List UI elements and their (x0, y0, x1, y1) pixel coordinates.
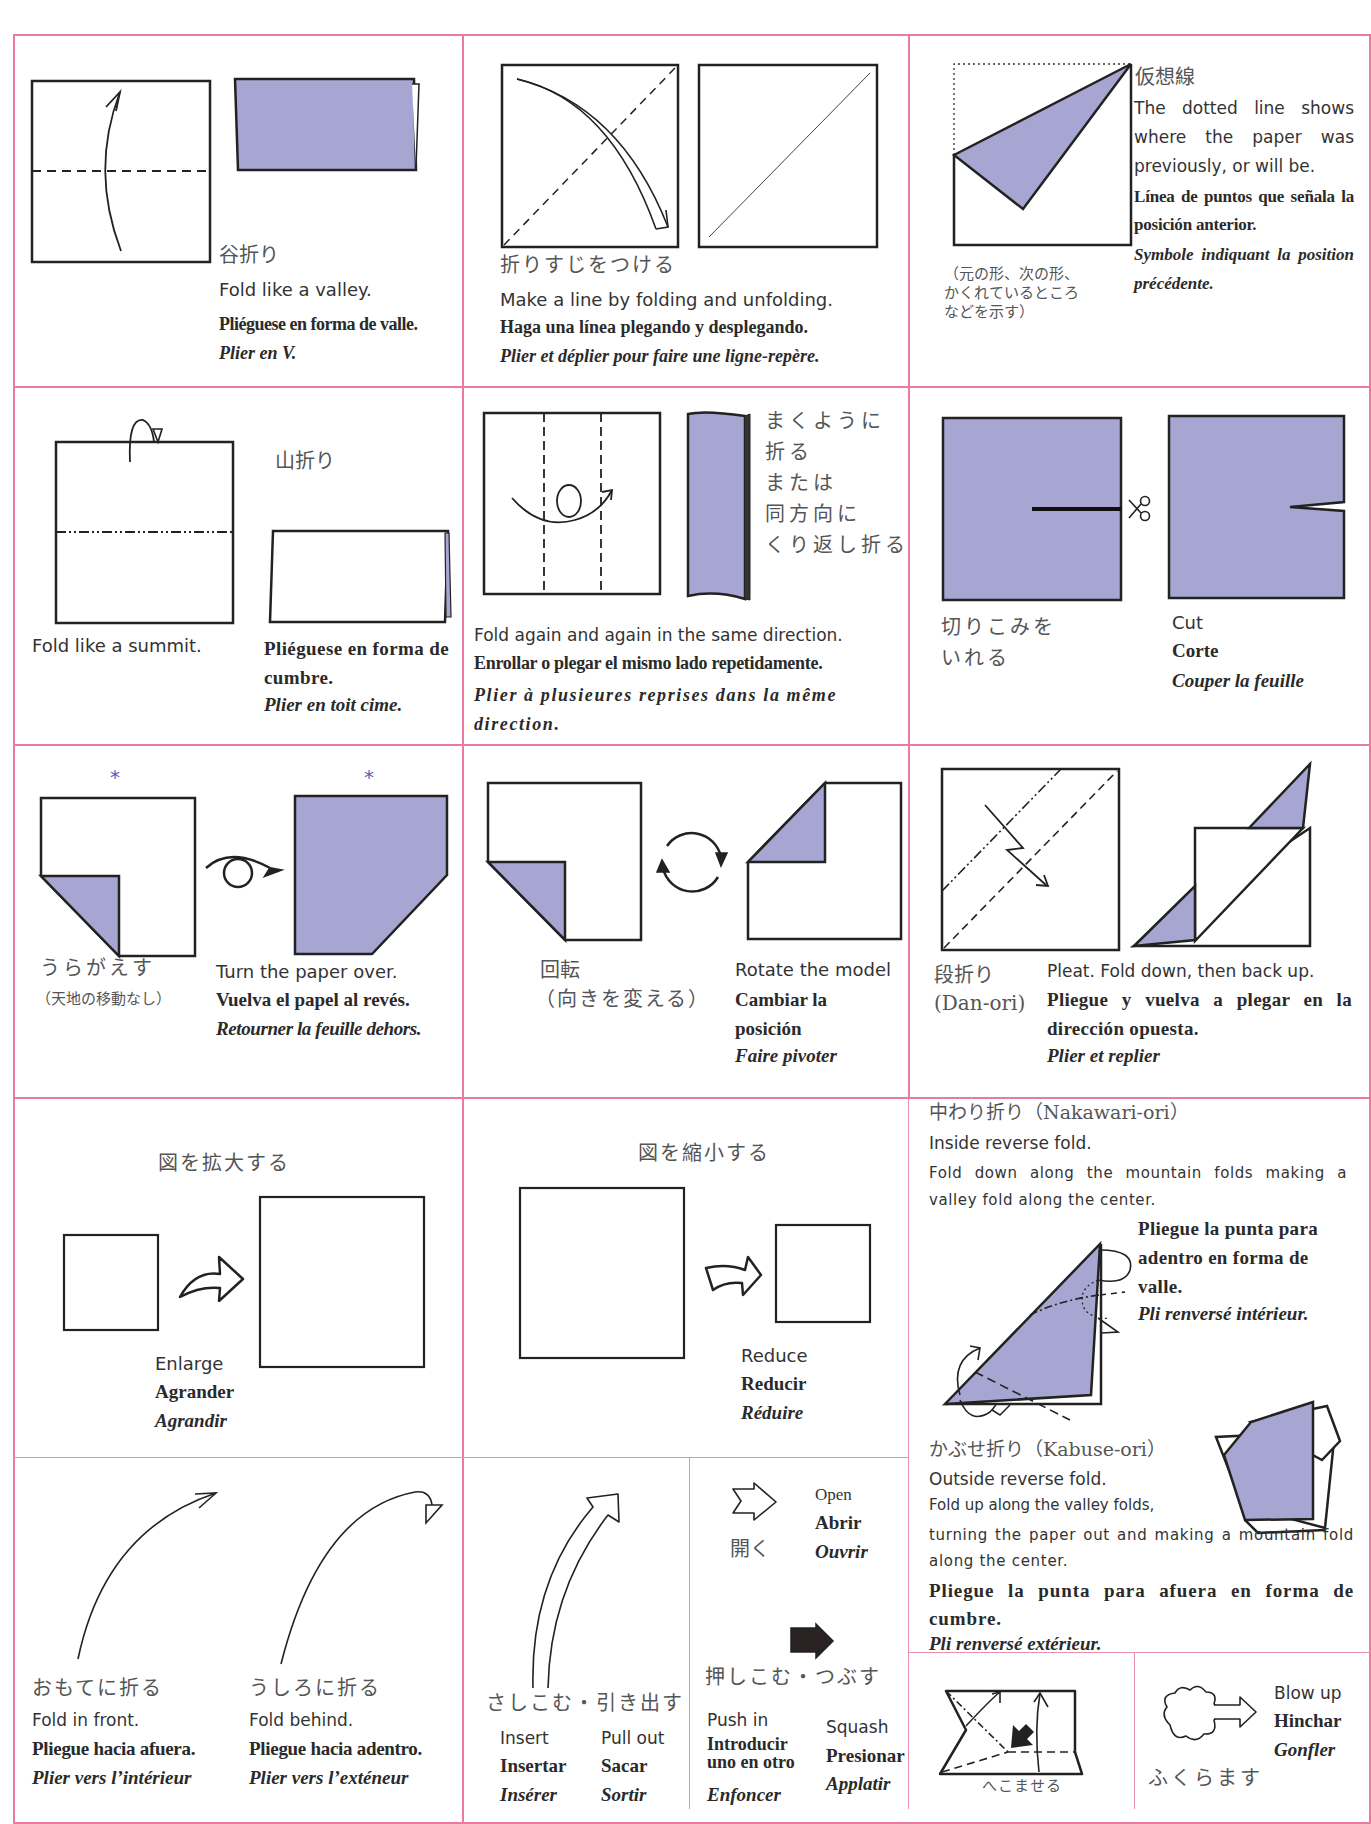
push-in-en: Push in (707, 1709, 768, 1731)
hidden-line-en: The dotted line shows where the paper wa… (1134, 94, 1354, 181)
valley-fold-es: Pliéguese en forma de valle. (219, 313, 417, 337)
mountain-fold-es: Pliéguese en forma de cumbre. (264, 634, 460, 692)
crease-jp: 折りすじをつける (500, 252, 676, 278)
outside-reverse-fr: Pli renversé extérieur. (929, 1631, 1102, 1656)
pleat-en: Pleat. Fold down, then back up. (1047, 960, 1314, 982)
pull-out-es: Sacar (601, 1753, 647, 1778)
enlarge-en: Enlarge (155, 1352, 223, 1376)
roll-fold-jp-4: 同方向に (765, 501, 861, 527)
pleat-es: Pliegue y vuelva a plegar en la direcció… (1047, 985, 1352, 1043)
hidden-line-jp: 仮想線 (1135, 64, 1195, 90)
blow-up-fr: Gonfler (1274, 1737, 1335, 1762)
fold-behind-en: Fold behind. (249, 1709, 353, 1731)
roll-fold-jp-1: まくように (765, 408, 885, 434)
insert-pull-jp: さしこむ・引き出す (486, 1690, 684, 1716)
reduce-fr: Réduire (741, 1400, 803, 1425)
roll-fold-en: Fold again and again in the same directi… (474, 624, 843, 646)
open-fr: Ouvrir (815, 1539, 868, 1564)
push-in-es: Introducir uno en otro (707, 1735, 817, 1771)
hidden-line-fr: Symbole indiquant la position précédente… (1134, 240, 1354, 298)
column-divider (908, 34, 910, 1097)
rotate-jp-2: （向きを変える） (535, 986, 710, 1012)
open-jp: 開く (730, 1536, 770, 1562)
open-es: Abrir (815, 1510, 861, 1535)
valley-fold-fr: Plier en V. (219, 342, 296, 366)
crease-fr: Plier et déplier pour faire une ligne-re… (500, 345, 819, 369)
sink-jp: へこませる (982, 1777, 1062, 1797)
pleat-jp-2: (Dan-ori) (934, 990, 1025, 1016)
valley-fold-jp: 谷折り (219, 242, 279, 268)
hidden-line-es: Línea de puntos que señala la posición a… (1134, 183, 1354, 239)
cut-jp-2: いれる (941, 645, 1010, 671)
mountain-fold-fr: Plier en toit cime. (264, 692, 402, 717)
roll-fold-jp-5: くり返し折る (765, 532, 909, 558)
open-en: Open (815, 1484, 852, 1506)
squash-en: Squash (826, 1716, 888, 1738)
inside-reverse-es: Pliegue la punta para adentro en forma d… (1138, 1214, 1348, 1301)
row-divider (13, 1457, 909, 1458)
fold-behind-fr: Plier vers l’exténeur (249, 1765, 408, 1790)
fold-front-fr: Plier vers l’intérieur (32, 1765, 191, 1790)
outside-reverse-es: Pliegue la punta para afuera en forma de… (929, 1577, 1354, 1633)
pull-out-fr: Sortir (601, 1782, 646, 1807)
fold-behind-es: Pliegue hacia adentro. (249, 1736, 422, 1761)
pull-out-en: Pull out (601, 1727, 664, 1749)
crease-es: Haga una línea plegando y desplegando. (500, 316, 808, 340)
pleat-jp-1: 段折り (934, 962, 994, 988)
reduce-es: Reducir (741, 1371, 806, 1396)
enlarge-jp: 図を拡大する (158, 1150, 290, 1176)
reduce-en: Reduce (741, 1344, 808, 1368)
turn-over-es: Vuelva el papel al revés. (216, 987, 410, 1012)
blow-up-diagram (0, 0, 1, 1)
cell-divider (689, 1457, 690, 1809)
roll-fold-fr: Plier à plusieures reprises dans la même… (474, 681, 904, 739)
turn-over-fr: Retourner la feuille dehors. (216, 1016, 421, 1041)
blow-up-jp: ふくらます (1148, 1765, 1263, 1791)
squash-es: Presionar (826, 1743, 905, 1768)
outside-reverse-en-2: turning the paper out and making a mount… (929, 1522, 1354, 1574)
fold-front-en: Fold in front. (32, 1709, 139, 1731)
hidden-line-note-1: （元の形、次の形、 (944, 265, 1079, 284)
mountain-fold-en: Fold like a summit. (32, 634, 202, 658)
inside-reverse-fr: Pli renversé intérieur. (1138, 1301, 1308, 1326)
cut-fr: Couper la feuille (1172, 668, 1304, 693)
reduce-jp: 図を縮小する (638, 1140, 770, 1166)
rotate-en: Rotate the model (735, 958, 891, 982)
fold-front-jp: おもてに折る (32, 1675, 163, 1701)
asterisk-marker: * (364, 764, 374, 790)
cut-jp-1: 切りこみを (941, 614, 1056, 640)
inside-reverse-en: Fold down along the mountain folds makin… (929, 1160, 1347, 1214)
enlarge-fr: Agrandir (155, 1408, 227, 1433)
fold-front-es: Pliegue hacia afuera. (32, 1736, 195, 1761)
hidden-line-note-2: かくれているところ (944, 284, 1079, 303)
outside-reverse-en-1: Fold up along the valley folds, (929, 1496, 1154, 1516)
outside-reverse-jp: かぶせ折り（Kabuse-ori） (929, 1437, 1166, 1462)
inside-reverse-en-title: Inside reverse fold. (929, 1132, 1092, 1154)
outside-reverse-en-title: Outside reverse fold. (929, 1468, 1107, 1490)
roll-fold-jp-2: 折る (765, 439, 813, 465)
valley-fold-en: Fold like a valley. (219, 278, 372, 302)
crease-en: Make a line by folding and unfolding. (500, 288, 833, 312)
row-divider (13, 744, 1371, 746)
inside-reverse-jp: 中わり折り（Nakawari-ori） (929, 1100, 1189, 1125)
squash-fr: Applatir (826, 1771, 890, 1796)
roll-fold-es: Enrollar o plegar el mismo lado repetida… (474, 652, 822, 676)
push-in-fr: Enfoncer (707, 1782, 781, 1807)
column-divider (462, 34, 464, 1824)
cut-en: Cut (1172, 611, 1203, 635)
rotate-es: Cambiar la posición (735, 985, 885, 1043)
column-divider (908, 1097, 909, 1809)
push-squash-jp: 押しこむ・つぶす (705, 1664, 881, 1690)
cell-divider (1134, 1652, 1135, 1809)
turn-over-jp: うらがえす (40, 955, 155, 981)
fold-behind-jp: うしろに折る (249, 1675, 381, 1701)
cloud-icon (1164, 1686, 1219, 1739)
insert-fr: Insérer (500, 1782, 557, 1807)
blow-up-es: Hinchar (1274, 1708, 1342, 1733)
asterisk-marker: * (110, 764, 120, 790)
enlarge-es: Agrander (155, 1379, 234, 1404)
insert-en: Insert (500, 1727, 549, 1749)
pleat-fr: Plier et replier (1047, 1043, 1160, 1068)
insert-es: Insertar (500, 1753, 566, 1778)
cut-es: Corte (1172, 638, 1218, 663)
